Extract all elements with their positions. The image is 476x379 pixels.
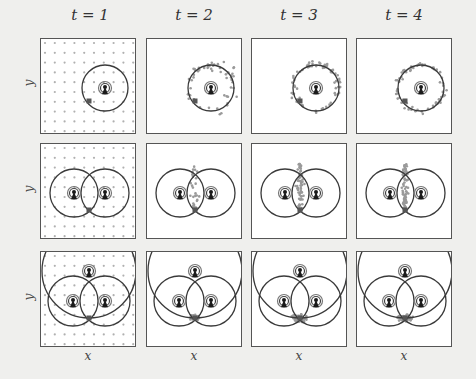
particle (403, 107, 406, 110)
particle (208, 107, 211, 110)
antenna-tower-icon (415, 187, 428, 200)
true-position-marker (87, 316, 92, 321)
grid-particle (44, 294, 46, 296)
antenna-tower-icon (415, 82, 428, 95)
particle (294, 185, 297, 188)
particle (223, 94, 226, 97)
particle (329, 102, 332, 105)
grid-particle (73, 52, 75, 54)
true-position-marker (298, 208, 303, 213)
grid-particle (132, 186, 134, 188)
panel-r2-t4 (356, 143, 452, 239)
grid-particle (64, 101, 66, 103)
true-position-marker (193, 316, 198, 321)
antenna-tower-icon (83, 265, 96, 278)
grid-particle (44, 52, 46, 54)
grid-particle (83, 101, 85, 103)
particle (338, 78, 341, 81)
grid-particle (73, 81, 75, 83)
grid-particle (64, 71, 66, 73)
particle (296, 87, 299, 90)
grid-particle (83, 147, 85, 149)
grid-particle (54, 324, 56, 326)
grid-particle (64, 294, 66, 296)
grid-particle (83, 225, 85, 227)
grid-particle (132, 265, 134, 267)
grid-particle (64, 284, 66, 286)
particle (190, 79, 193, 82)
particle (325, 64, 328, 67)
grid-particle (132, 333, 134, 335)
true-position-marker (193, 208, 198, 213)
grid-particle (44, 324, 46, 326)
grid-particle (64, 157, 66, 159)
grid-particle (93, 294, 95, 296)
particle (301, 184, 304, 187)
grid-particle (64, 255, 66, 257)
grid-particle (132, 111, 134, 113)
grid-particle (64, 304, 66, 306)
grid-particle (44, 314, 46, 316)
grid-particle (83, 120, 85, 122)
grid-particle (44, 196, 46, 198)
true-position-marker (403, 99, 408, 104)
grid-particle (54, 196, 56, 198)
grid-particle (54, 294, 56, 296)
antenna-tower-icon (383, 295, 396, 308)
grid-particle (73, 255, 75, 257)
grid-particle (132, 52, 134, 54)
grid-particle (44, 176, 46, 178)
grid-particle (113, 206, 115, 208)
range-circle (42, 252, 136, 318)
grid-particle (93, 157, 95, 159)
antenna-tower-icon (174, 187, 187, 200)
grid-particle (73, 235, 75, 237)
grid-particle (44, 71, 46, 73)
grid-particle (122, 196, 124, 198)
antenna-tower-icon (294, 265, 307, 278)
grid-particle (122, 91, 124, 93)
grid-particle (132, 71, 134, 73)
grid-particle (64, 235, 66, 237)
grid-particle (54, 216, 56, 218)
particle (405, 186, 408, 189)
grid-particle (54, 147, 56, 149)
grid-particle (44, 42, 46, 44)
grid-particle (132, 91, 134, 93)
grid-particle (44, 130, 46, 132)
panel-r3-t3 (251, 251, 347, 347)
particle (192, 186, 195, 189)
grid-particle (113, 196, 115, 198)
grid-particle (44, 275, 46, 277)
grid-particle (64, 81, 66, 83)
grid-particle (113, 294, 115, 296)
grid-particle (54, 314, 56, 316)
particle (299, 180, 302, 183)
grid-particle (93, 62, 95, 64)
particle (300, 195, 303, 198)
grid-particle (73, 284, 75, 286)
grid-particle (132, 314, 134, 316)
grid-particle (122, 333, 124, 335)
grid-particle (132, 206, 134, 208)
grid-particle (113, 255, 115, 257)
antenna-tower-icon (205, 295, 218, 308)
particle (402, 201, 405, 204)
particle (300, 170, 303, 173)
grid-particle (93, 225, 95, 227)
particle (232, 75, 235, 78)
particle (404, 178, 407, 181)
particle (192, 202, 195, 205)
grid-particle (132, 167, 134, 169)
particle (206, 67, 209, 70)
grid-particle (132, 147, 134, 149)
x-axis-label-col4: x (356, 349, 452, 363)
particle (291, 97, 294, 100)
panel-canvas (252, 144, 347, 239)
particle (300, 190, 303, 193)
grid-particle (83, 111, 85, 113)
grid-particle (73, 101, 75, 103)
grid-particle (64, 314, 66, 316)
grid-particle (113, 176, 115, 178)
panel-r2-t1 (40, 143, 136, 239)
